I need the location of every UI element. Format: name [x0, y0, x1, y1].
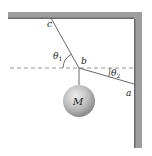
label-theta2: θ2 — [111, 68, 120, 79]
string-ba — [79, 68, 134, 84]
right-wall — [134, 12, 142, 148]
label-theta1: θ1 — [53, 51, 62, 62]
theta2-subscript: 2 — [116, 72, 120, 79]
label-mass: M — [72, 96, 84, 107]
label-c: c — [47, 19, 52, 29]
label-b: b — [81, 56, 87, 66]
theta1-subscript: 1 — [58, 55, 62, 62]
ceiling — [8, 12, 142, 19]
pendulum-diagram: c b a M θ1 θ2 — [0, 0, 152, 156]
label-a: a — [126, 88, 131, 98]
theta1-arc — [63, 55, 71, 69]
theta2-arc — [109, 68, 110, 77]
